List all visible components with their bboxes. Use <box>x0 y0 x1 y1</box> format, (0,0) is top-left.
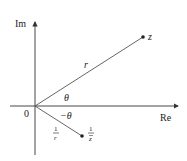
origin-label: 0 <box>24 108 29 119</box>
point-z-label: z <box>147 31 152 42</box>
ray-to-z <box>35 37 143 106</box>
real-axis-label: Re <box>160 112 172 123</box>
complex-plane-diagram: Im Re 0 z r θ −θ 1 r 1 z <box>0 0 187 161</box>
point-inverse <box>80 134 84 138</box>
inverse-label-denominator: z <box>88 135 92 143</box>
inv-modulus-numerator: 1 <box>54 125 58 133</box>
imag-axis-label: Im <box>15 18 26 29</box>
inverse-label-numerator: 1 <box>89 125 93 133</box>
modulus-label: r <box>84 59 88 70</box>
angle-label: θ <box>64 92 69 103</box>
point-z <box>141 35 145 39</box>
ray-to-inverse <box>35 106 82 136</box>
inv-modulus-denominator: r <box>54 134 57 142</box>
neg-angle-label: −θ <box>60 110 72 121</box>
